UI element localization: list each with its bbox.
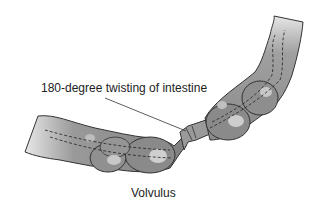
twist-annotation-label: 180-degree twisting of intestine xyxy=(41,81,207,95)
annotation-pointer-line xyxy=(105,98,186,131)
intestine-illustration xyxy=(0,0,317,206)
diagram-title: Volvulus xyxy=(131,186,176,200)
